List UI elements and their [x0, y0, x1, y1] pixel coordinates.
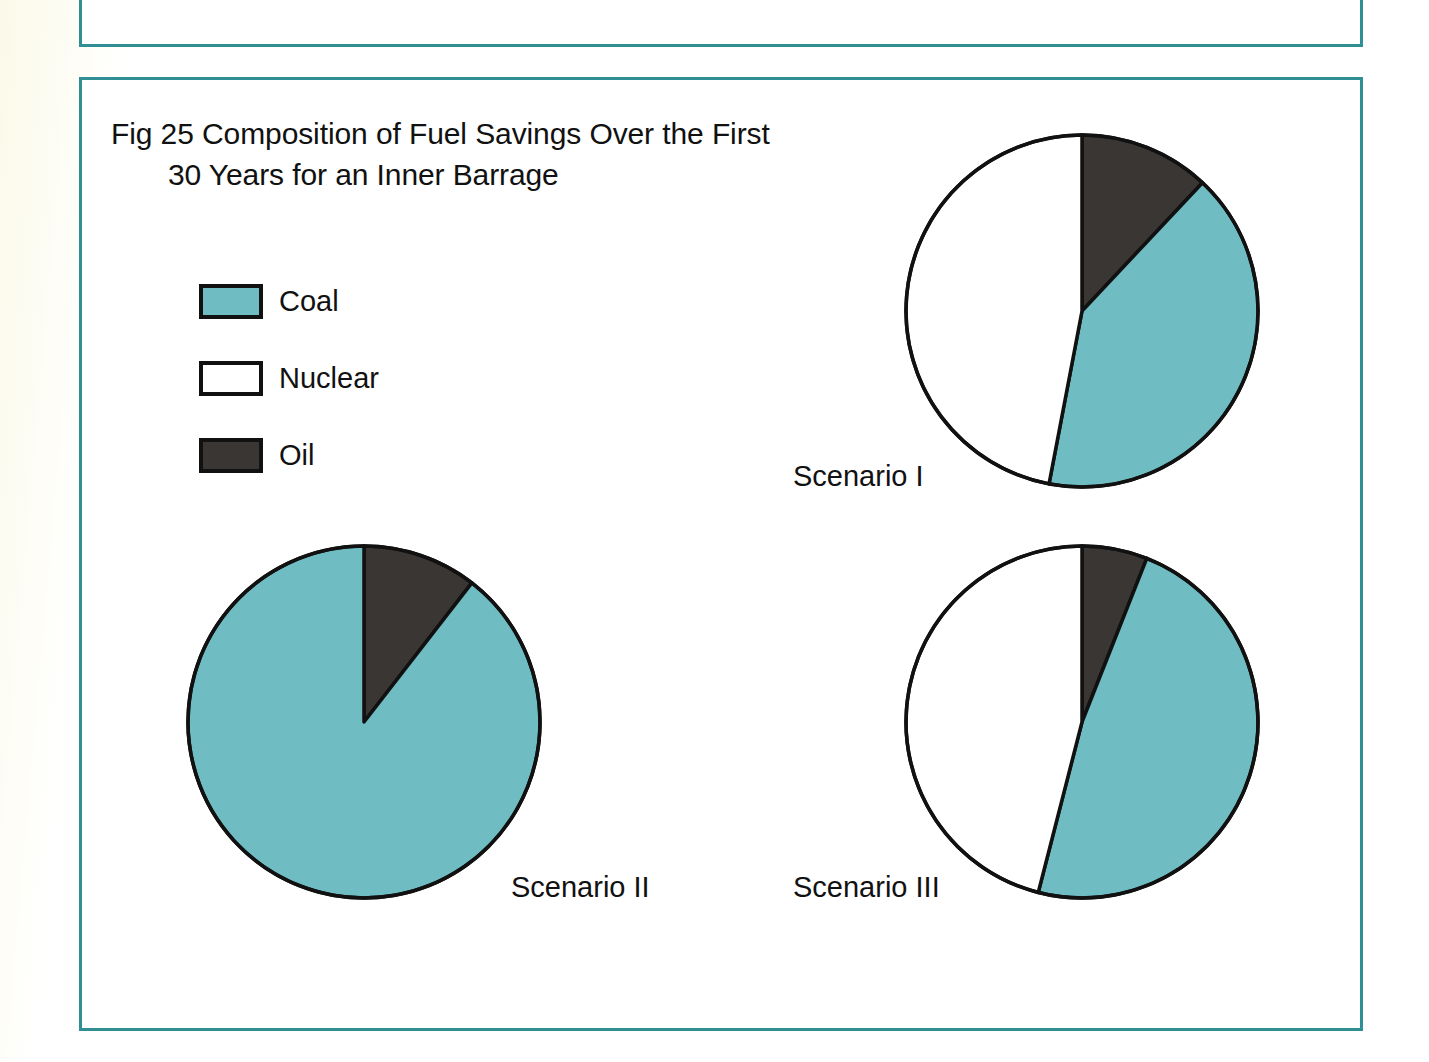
legend-label-coal: Coal [279, 285, 339, 318]
legend-label-nuclear: Nuclear [279, 362, 379, 395]
chart-legend: Coal Nuclear Oil [199, 282, 379, 513]
legend-swatch-coal [199, 284, 263, 319]
pie-chart-scenario-1 [900, 129, 1264, 493]
legend-item-coal: Coal [199, 282, 379, 321]
figure-title-line-2: 30 Years for an Inner Barrage [111, 154, 941, 195]
legend-label-oil: Oil [279, 439, 314, 472]
scenario-3-label: Scenario III [793, 871, 940, 904]
pie-slice-nuclear [906, 135, 1082, 484]
legend-item-oil: Oil [199, 436, 379, 475]
figure-title-line-1: Fig 25 Composition of Fuel Savings Over … [111, 117, 770, 150]
scenario-2-label: Scenario II [511, 871, 650, 904]
legend-swatch-oil [199, 438, 263, 473]
legend-swatch-nuclear [199, 361, 263, 396]
pie-chart-scenario-2 [182, 540, 546, 904]
pie-chart-scenario-3 [900, 540, 1264, 904]
legend-item-nuclear: Nuclear [199, 359, 379, 398]
scenario-1-label: Scenario I [793, 460, 924, 493]
pie-slice-coal [188, 546, 540, 898]
upper-figure-frame [79, 0, 1363, 47]
figure-title: Fig 25 Composition of Fuel Savings Over … [111, 113, 941, 195]
